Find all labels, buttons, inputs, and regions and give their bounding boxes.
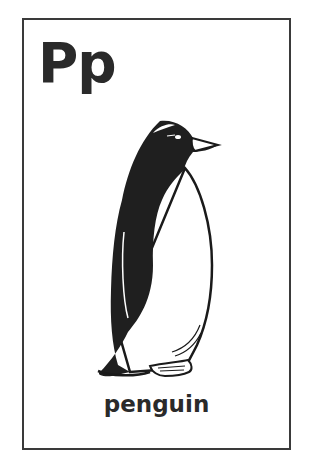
penguin-illustration <box>0 0 310 465</box>
penguin-eye <box>175 135 181 139</box>
penguin-beak <box>192 138 218 151</box>
